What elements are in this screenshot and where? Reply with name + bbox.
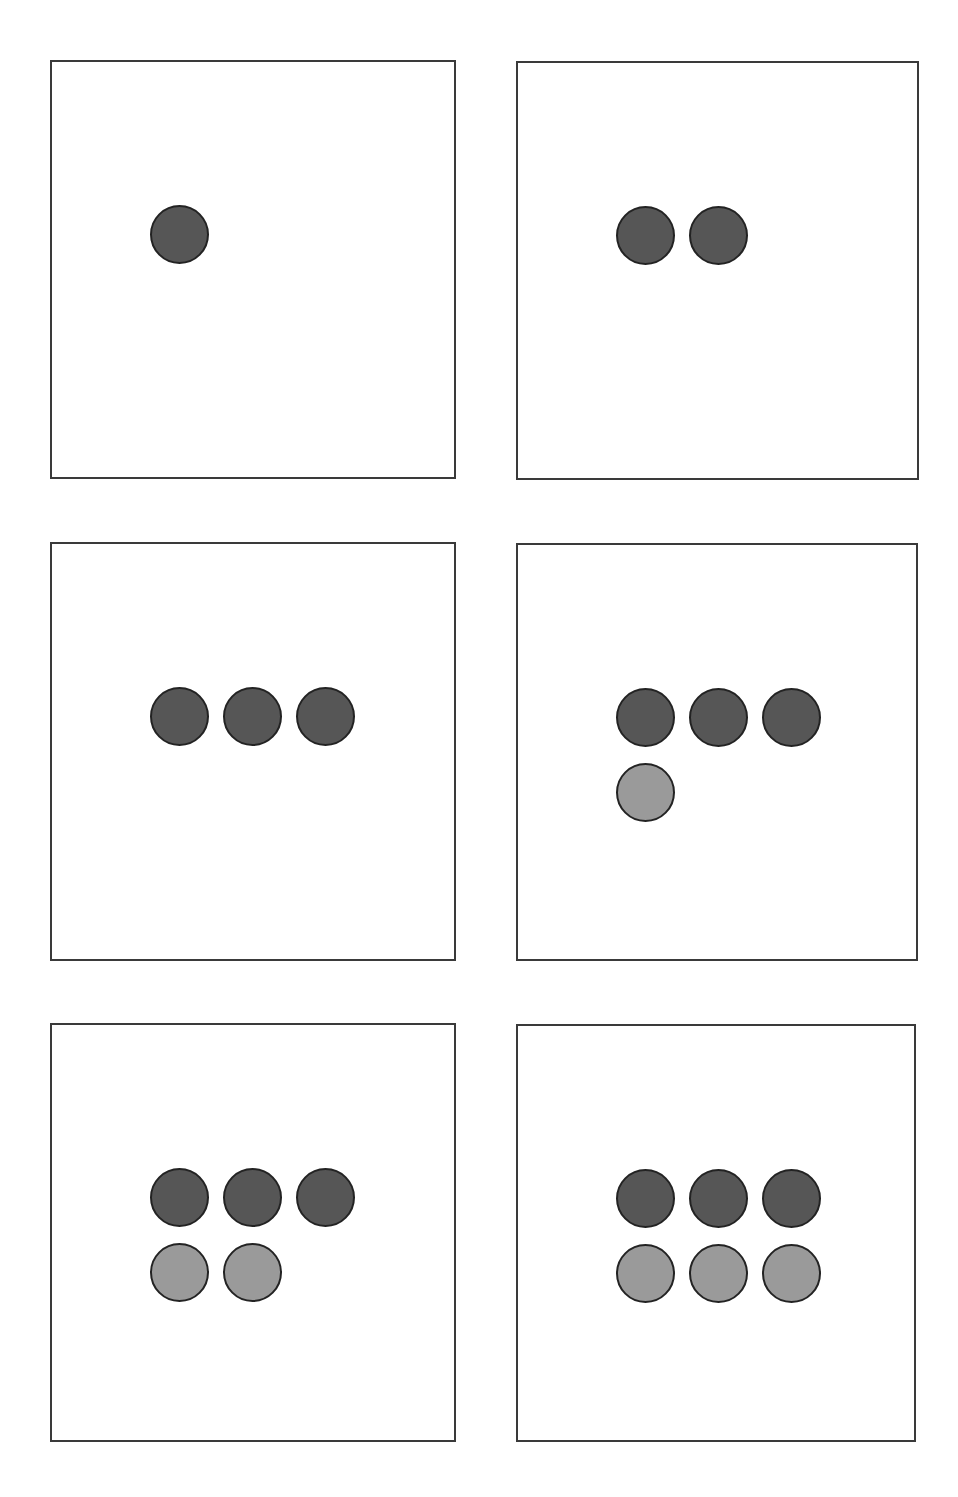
panel-5 — [50, 1023, 456, 1442]
dark-circle-icon — [689, 1169, 748, 1228]
dark-circle-icon — [616, 206, 675, 265]
panel-2 — [516, 61, 919, 480]
dark-circle-icon — [150, 687, 209, 746]
dark-circle-icon — [296, 687, 355, 746]
light-circle-icon — [223, 1243, 282, 1302]
light-circle-icon — [150, 1243, 209, 1302]
panel-1 — [50, 60, 456, 479]
panel-3 — [50, 542, 456, 961]
dark-circle-icon — [762, 1169, 821, 1228]
dark-circle-icon — [150, 205, 209, 264]
dark-circle-icon — [762, 688, 821, 747]
dark-circle-icon — [150, 1168, 209, 1227]
light-circle-icon — [616, 763, 675, 822]
dark-circle-icon — [223, 1168, 282, 1227]
light-circle-icon — [762, 1244, 821, 1303]
dark-circle-icon — [616, 688, 675, 747]
dark-circle-icon — [616, 1169, 675, 1228]
dark-circle-icon — [689, 688, 748, 747]
panel-4 — [516, 543, 918, 961]
dark-circle-icon — [296, 1168, 355, 1227]
light-circle-icon — [689, 1244, 748, 1303]
panel-6 — [516, 1024, 916, 1442]
dark-circle-icon — [223, 687, 282, 746]
dark-circle-icon — [689, 206, 748, 265]
light-circle-icon — [616, 1244, 675, 1303]
